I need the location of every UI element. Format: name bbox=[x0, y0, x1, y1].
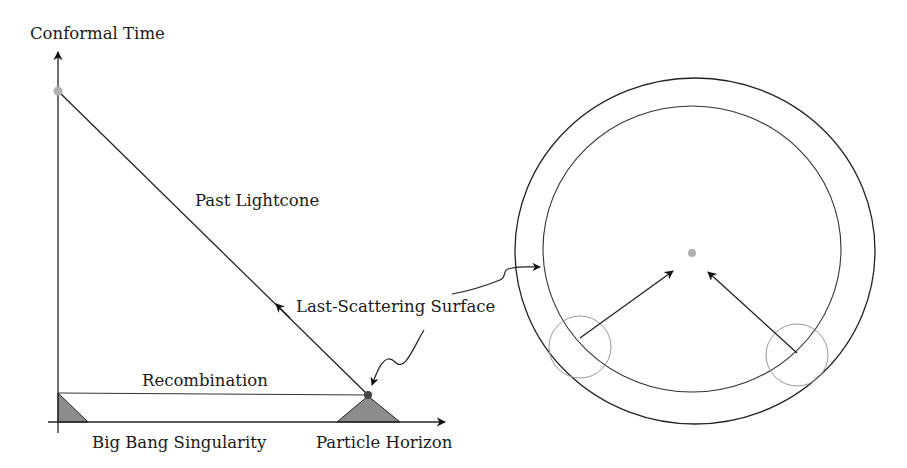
observer-dot bbox=[54, 87, 63, 96]
horizon-patch-left bbox=[549, 316, 611, 378]
light-ray-left-arrow-icon bbox=[580, 271, 673, 338]
sky-diagram bbox=[452, 78, 875, 424]
last-scattering-dot bbox=[364, 391, 372, 399]
y-axis-label: Conformal Time bbox=[30, 24, 165, 43]
surface-pointer-arrow-icon bbox=[452, 267, 540, 294]
past-lightcone-line bbox=[58, 91, 368, 395]
squiggle-arrow-icon bbox=[372, 330, 424, 385]
center-observer-dot bbox=[688, 249, 696, 257]
big-bang-shaded-region bbox=[58, 393, 88, 422]
past-lightcone-label: Past Lightcone bbox=[195, 191, 319, 210]
big-bang-label: Big Bang Singularity bbox=[92, 433, 267, 452]
spacetime-diagram: Conformal Time Past Lightcone Last-Scatt… bbox=[30, 24, 495, 452]
recombination-label: Recombination bbox=[142, 371, 268, 390]
recombination-line bbox=[58, 393, 368, 395]
particle-horizon-shaded-region bbox=[337, 396, 400, 422]
cmb-horizon-diagram: Conformal Time Past Lightcone Last-Scatt… bbox=[0, 0, 907, 468]
particle-horizon-label: Particle Horizon bbox=[316, 433, 453, 452]
light-ray-right-arrow-icon bbox=[708, 272, 797, 353]
lightcone-arrow-icon bbox=[276, 304, 290, 318]
last-scattering-label: Last-Scattering Surface bbox=[296, 297, 495, 316]
